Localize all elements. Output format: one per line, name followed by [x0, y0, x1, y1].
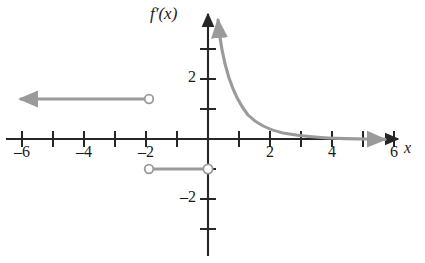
left-constant-ray	[20, 95, 153, 104]
graph-figure: f′(x) x –6 –4 –2 2 4 6 2 –2	[0, 0, 425, 263]
x-tick-label-neg2: –2	[131, 143, 161, 161]
open-circle-endpoint-segment-right	[203, 164, 212, 173]
reciprocal-branch	[218, 20, 385, 139]
open-circle-endpoint-segment-left	[145, 165, 154, 174]
x-tick-label-6: 6	[379, 143, 409, 161]
middle-constant-segment	[145, 164, 213, 173]
open-circle-endpoint-left-ray	[145, 95, 154, 104]
x-tick-label-2: 2	[255, 143, 285, 161]
y-axis	[200, 14, 216, 256]
y-tick-label-2: 2	[172, 68, 196, 86]
y-axis-label: f′(x)	[150, 4, 177, 24]
x-tick-label-4: 4	[317, 143, 347, 161]
plot-canvas	[0, 0, 425, 263]
x-tick-label-neg4: –4	[69, 143, 99, 161]
reciprocal-branch-path	[218, 20, 385, 139]
y-tick-label-neg2: –2	[172, 188, 196, 206]
x-tick-label-neg6: –6	[7, 143, 37, 161]
